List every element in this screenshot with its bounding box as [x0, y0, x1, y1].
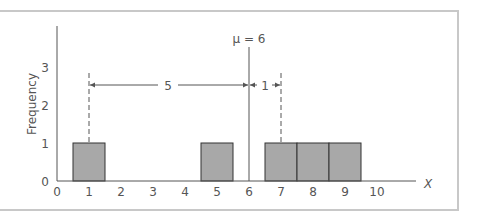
- x-tick-label: 9: [341, 185, 349, 199]
- distance-label-left: 5: [164, 79, 172, 93]
- distance-label-right: 1: [261, 79, 269, 93]
- arrow-head-icon: [243, 83, 248, 88]
- histogram-bar: [73, 143, 105, 181]
- arrow-head-icon: [90, 83, 95, 88]
- histogram-bar: [297, 143, 329, 181]
- x-tick-label: 8: [309, 185, 317, 199]
- x-tick-label: 4: [181, 185, 189, 199]
- x-tick-label: 2: [117, 185, 125, 199]
- x-axis-label: X: [423, 177, 433, 191]
- histogram-bar: [329, 143, 361, 181]
- x-tick-label: 10: [369, 185, 384, 199]
- histogram-bar: [265, 143, 297, 181]
- x-tick-label: 3: [149, 185, 157, 199]
- arrow-head-icon: [250, 83, 255, 88]
- y-tick-label: 0: [41, 175, 49, 189]
- x-tick-label: 0: [53, 185, 61, 199]
- y-tick-label: 1: [41, 137, 49, 151]
- x-tick-label: 1: [85, 185, 93, 199]
- y-tick-label: 2: [41, 99, 49, 113]
- arrow-head-icon: [275, 83, 280, 88]
- y-tick-label: 3: [41, 61, 49, 75]
- mean-label: μ = 6: [233, 32, 266, 46]
- x-tick-label: 5: [213, 185, 221, 199]
- y-axis-label: Frequency: [25, 73, 39, 135]
- x-tick-label: 6: [245, 185, 253, 199]
- x-tick-label: 7: [277, 185, 285, 199]
- histogram-bar: [201, 143, 233, 181]
- histogram-chart: 0123012345678910FrequencyXμ = 651: [0, 0, 479, 215]
